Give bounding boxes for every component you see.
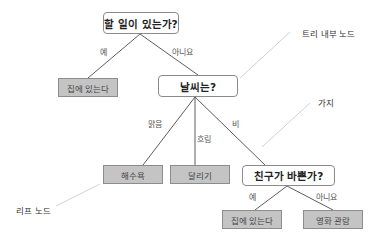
edge-label-weather-cloudy: 흐림 xyxy=(197,133,211,144)
node-friends-busy: 친구가 바쁜가? xyxy=(242,165,335,186)
leaf-stay-home-2: 집에 있는다 xyxy=(222,210,282,229)
leaf-movie: 영화 관람 xyxy=(303,210,363,229)
leaf-beach: 해수욕 xyxy=(103,165,163,184)
edge-friends-yes xyxy=(255,186,287,210)
node-root: 할 일이 있는가? xyxy=(103,12,179,34)
edge-label-root-no: 아니요 xyxy=(172,46,193,57)
leaf-running: 달리기 xyxy=(170,165,230,184)
leaf-movie-text: 영화 관람 xyxy=(316,214,351,226)
node-weather-text: 날씨는? xyxy=(180,79,216,94)
leaf-stay-home-1: 집에 있는다 xyxy=(58,78,118,97)
annotation-line-internal-node xyxy=(240,32,290,78)
node-weather: 날씨는? xyxy=(158,75,238,97)
edge-label-friends-yes: 예 xyxy=(249,191,256,202)
edge-weather-rain xyxy=(195,97,265,165)
edge-label-friends-no: 아니요 xyxy=(316,191,337,202)
edge-label-root-yes: 예 xyxy=(100,46,107,57)
edge-label-weather-rain: 비 xyxy=(232,118,239,129)
leaf-running-text: 달리기 xyxy=(188,169,212,181)
node-friends-busy-text: 친구가 바쁜가? xyxy=(254,168,324,183)
annotation-line-leaf-node xyxy=(56,184,100,206)
leaf-stay-home-2-text: 집에 있는다 xyxy=(231,214,274,226)
leaf-beach-text: 해수욕 xyxy=(121,169,145,181)
annotation-internal-node: 트리 내부 노드 xyxy=(302,27,355,39)
edge-label-weather-sunny: 맑음 xyxy=(148,118,162,129)
annotation-branch: 가지 xyxy=(318,96,334,108)
annotation-leaf-node: 리프 노드 xyxy=(16,204,51,216)
edge-root-yes xyxy=(88,34,140,78)
node-root-text: 할 일이 있는가? xyxy=(104,16,177,31)
annotation-line-branch xyxy=(262,103,310,147)
edge-weather-sunny xyxy=(143,97,195,165)
leaf-stay-home-1-text: 집에 있는다 xyxy=(67,82,110,94)
